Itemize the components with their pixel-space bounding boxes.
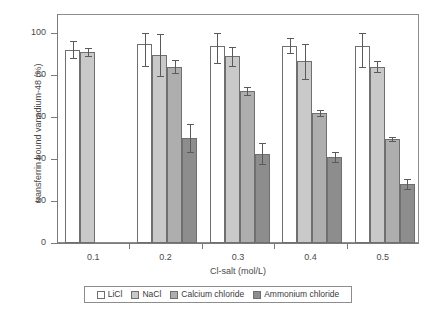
legend-swatch-icon <box>170 291 178 299</box>
legend-entry-ammonium-chloride[interactable]: Ammonium chloride <box>253 290 339 299</box>
bar-licl-0.5 <box>355 46 370 243</box>
error-bar-cap-lower <box>259 164 266 165</box>
error-bar-line <box>262 143 263 164</box>
error-bar-line <box>145 33 146 66</box>
x-tick-label: 0.2 <box>136 252 196 262</box>
legend-label: Calcium chloride <box>181 290 244 299</box>
error-bar-line <box>160 34 161 76</box>
bar-licl-0.3 <box>210 46 225 243</box>
legend-swatch-icon <box>131 291 139 299</box>
x-tick-mark <box>347 244 348 249</box>
error-bar-cap-lower <box>187 152 194 153</box>
error-bar-cap-upper <box>389 137 396 138</box>
bar-calcium-chloride-0.3 <box>240 91 255 243</box>
bar-ammonium-chloride-0.2 <box>182 138 197 243</box>
legend-label: LiCl <box>108 290 123 299</box>
bar-calcium-chloride-0.5 <box>385 139 400 243</box>
bar-nacl-0.1 <box>80 52 95 243</box>
error-bar-cap-upper <box>359 33 366 34</box>
error-bar-line <box>175 60 176 73</box>
bar-nacl-0.2 <box>152 55 167 243</box>
error-bar-line <box>335 152 336 163</box>
bar-ammonium-chloride-0.5 <box>400 184 415 243</box>
x-tick-label: 0.1 <box>63 252 123 262</box>
bar-licl-0.2 <box>137 44 152 244</box>
error-bar-line <box>190 124 191 151</box>
bar-calcium-chloride-0.4 <box>312 113 327 243</box>
error-bar-cap-upper <box>244 87 251 88</box>
error-bar-line <box>73 41 74 58</box>
error-bar-line <box>362 33 363 67</box>
bar-ammonium-chloride-0.3 <box>255 154 270 243</box>
error-bar-cap-lower <box>172 73 179 74</box>
error-bar-line <box>377 61 378 72</box>
legend-label: NaCl <box>142 290 161 299</box>
error-bar-cap-upper <box>317 110 324 111</box>
error-bar-cap-upper <box>229 47 236 48</box>
bar-licl-0.1 <box>65 50 80 243</box>
y-tick-label: 20 <box>6 196 46 205</box>
x-tick-mark <box>202 244 203 249</box>
bar-calcium-chloride-0.2 <box>167 67 182 243</box>
bar-licl-0.4 <box>282 46 297 243</box>
error-bar-cap-lower <box>374 72 381 73</box>
error-bar-cap-upper <box>404 179 411 180</box>
error-bar-cap-lower <box>404 189 411 190</box>
bar-nacl-0.5 <box>370 67 385 243</box>
error-bar-cap-lower <box>157 76 164 77</box>
x-tick-label: 0.5 <box>353 252 413 262</box>
bar-ammonium-chloride-0.4 <box>327 157 342 243</box>
error-bar-cap-upper <box>302 44 309 45</box>
legend-entry-calcium-chloride[interactable]: Calcium chloride <box>170 290 244 299</box>
error-bar-line <box>290 38 291 53</box>
y-axis-line <box>57 14 58 243</box>
y-tick-mark <box>51 243 57 244</box>
legend-swatch-icon <box>97 291 105 299</box>
error-bar-line <box>217 33 218 63</box>
error-bar-cap-lower <box>70 58 77 59</box>
chart-figure: transferrin bound vanadium-48 (%) Cl-sal… <box>0 0 435 320</box>
error-bar-cap-upper <box>157 34 164 35</box>
error-bar-line <box>247 87 248 95</box>
x-tick-mark <box>129 244 130 249</box>
error-bar-cap-lower <box>85 56 92 57</box>
bar-nacl-0.4 <box>297 61 312 243</box>
error-bar-cap-upper <box>142 33 149 34</box>
error-bar-cap-upper <box>259 143 266 144</box>
legend-label: Ammonium chloride <box>264 290 339 299</box>
error-bar-cap-lower <box>332 162 339 163</box>
y-tick-label: 80 <box>6 70 46 79</box>
error-bar-line <box>88 48 89 56</box>
error-bar-cap-lower <box>142 66 149 67</box>
error-bar-cap-lower <box>287 53 294 54</box>
error-bar-cap-upper <box>70 41 77 42</box>
error-bar-cap-upper <box>187 124 194 125</box>
error-bar-cap-lower <box>229 66 236 67</box>
error-bar-cap-lower <box>389 141 396 142</box>
error-bar-cap-lower <box>244 95 251 96</box>
error-bar-cap-upper <box>214 33 221 34</box>
legend-entry-licl[interactable]: LiCl <box>97 290 123 299</box>
x-tick-label: 0.3 <box>208 252 268 262</box>
y-tick-label: 60 <box>6 112 46 121</box>
error-bar-line <box>232 47 233 66</box>
y-tick-mark <box>51 33 57 34</box>
error-bar-cap-lower <box>317 116 324 117</box>
y-tick-label: 100 <box>6 28 46 37</box>
x-axis-title: Cl-salt (mol/L) <box>57 266 419 276</box>
y-tick-mark <box>51 159 57 160</box>
x-tick-mark <box>274 244 275 249</box>
error-bar-cap-upper <box>85 48 92 49</box>
error-bar-cap-lower <box>214 63 221 64</box>
error-bar-cap-upper <box>287 38 294 39</box>
y-tick-label: 0 <box>6 238 46 247</box>
error-bar-cap-upper <box>374 61 381 62</box>
x-tick-label: 0.4 <box>280 252 340 262</box>
chart-legend: LiClNaClCalcium chlorideAmmonium chlorid… <box>84 286 352 303</box>
x-axis-line <box>57 243 419 244</box>
y-tick-mark <box>51 117 57 118</box>
error-bar-line <box>407 179 408 190</box>
y-tick-mark <box>51 201 57 202</box>
bar-nacl-0.3 <box>225 56 240 243</box>
legend-entry-nacl[interactable]: NaCl <box>131 290 161 299</box>
